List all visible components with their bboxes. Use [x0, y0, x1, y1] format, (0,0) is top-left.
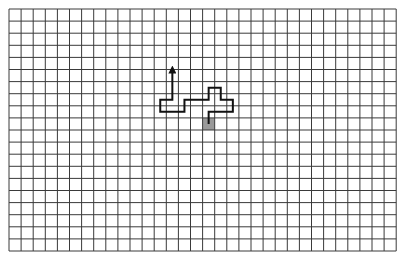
grid-diagram	[0, 0, 401, 257]
walk-path-line	[160, 70, 233, 124]
grid-lines	[9, 9, 396, 251]
grid-canvas	[0, 0, 401, 257]
walk-path	[160, 70, 233, 124]
